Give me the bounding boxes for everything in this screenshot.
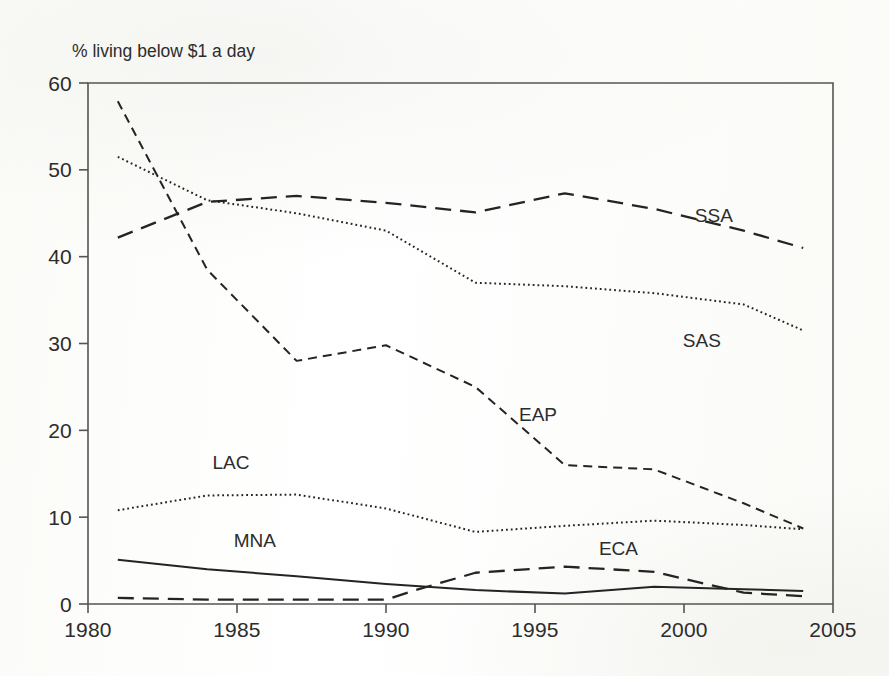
y-tick-label: 50: [48, 158, 72, 181]
series-label-lac: LAC: [213, 452, 250, 473]
y-tick-label: 0: [60, 593, 72, 616]
y-axis-title: % living below $1 a day: [72, 41, 255, 61]
y-tick-label: 40: [48, 245, 72, 268]
x-tick-label: 1980: [64, 618, 112, 641]
y-axis: 0102030405060: [48, 72, 88, 616]
plot-frame: [88, 83, 833, 604]
series-label-eca: ECA: [599, 538, 638, 559]
x-tick-label: 1995: [511, 618, 559, 641]
series-label-ssa: SSA: [695, 205, 733, 226]
x-tick-label: 1990: [362, 618, 410, 641]
series-line-mna: [118, 560, 803, 594]
series-label-mna: MNA: [234, 530, 277, 551]
x-tick-label: 2000: [660, 618, 708, 641]
plot-border: [88, 83, 833, 604]
series-label-eap: EAP: [519, 404, 557, 425]
figure-container: % living below $1 a day 0102030405060 19…: [0, 0, 889, 676]
series-annotations: SSASASEAPLACMNAECA: [213, 205, 734, 559]
series-line-sas: [118, 157, 803, 331]
y-tick-label: 30: [48, 332, 72, 355]
series-label-sas: SAS: [683, 330, 721, 351]
series-line-lac: [118, 495, 803, 532]
y-tick-label: 20: [48, 419, 72, 442]
series-line-eca: [118, 567, 803, 600]
x-tick-label: 2005: [809, 618, 857, 641]
y-tick-label: 10: [48, 506, 72, 529]
x-axis: 198019851990199520002005: [64, 604, 857, 641]
line-chart: % living below $1 a day 0102030405060 19…: [0, 0, 889, 676]
x-tick-label: 1985: [213, 618, 261, 641]
y-tick-label: 60: [48, 72, 72, 95]
